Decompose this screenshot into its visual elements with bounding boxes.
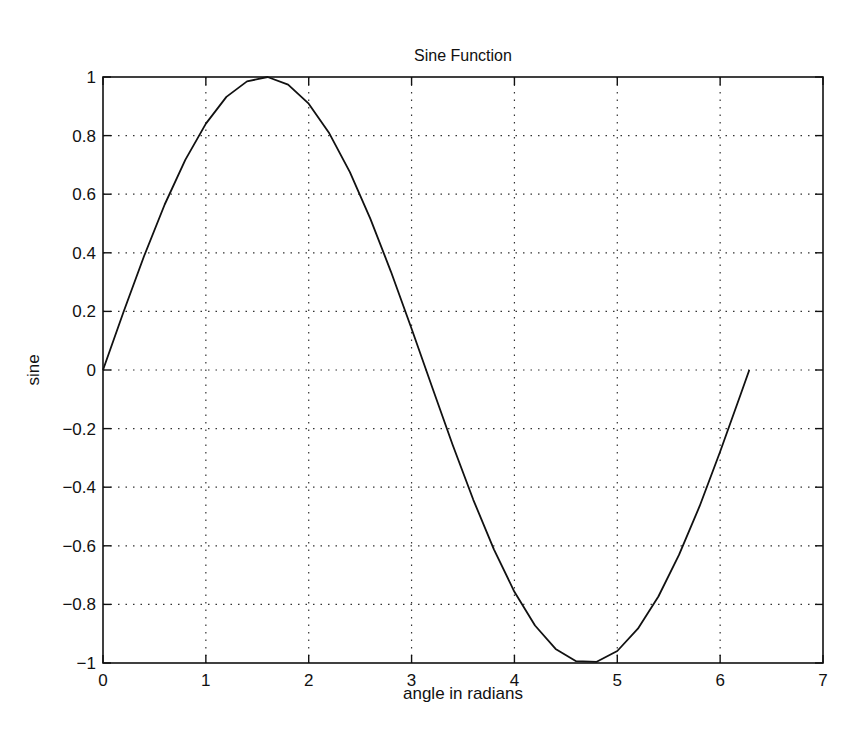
x-tick-label: 5 [613, 671, 622, 690]
x-tick-label: 0 [98, 671, 107, 690]
y-tick-label: 0 [87, 361, 96, 380]
sine-chart: 01234567 −1−0.8−0.6−0.4−0.200.20.40.60.8… [0, 0, 864, 748]
x-axis-label: angle in radians [403, 684, 523, 703]
y-tick-label: −0.4 [62, 478, 96, 497]
sine-curve [103, 77, 749, 662]
y-tick-label: −1 [77, 654, 96, 673]
y-axis-label: sine [24, 354, 43, 385]
chart-title: Sine Function [414, 47, 512, 64]
x-tick-label: 1 [201, 671, 210, 690]
y-tick-label: 0.8 [72, 127, 96, 146]
y-tick-label: 0.2 [72, 302, 96, 321]
y-tick-label: −0.8 [62, 595, 96, 614]
y-tick-label: 0.4 [72, 244, 96, 263]
y-tick-labels: −1−0.8−0.6−0.4−0.200.20.40.60.81 [62, 68, 96, 673]
y-tick-label: 0.6 [72, 185, 96, 204]
y-tick-label: −0.2 [62, 420, 96, 439]
x-tick-label: 6 [715, 671, 724, 690]
x-tick-label: 2 [304, 671, 313, 690]
y-tick-label: 1 [87, 68, 96, 87]
y-tick-label: −0.6 [62, 537, 96, 556]
grid-lines [103, 77, 823, 663]
x-tick-label: 7 [818, 671, 827, 690]
